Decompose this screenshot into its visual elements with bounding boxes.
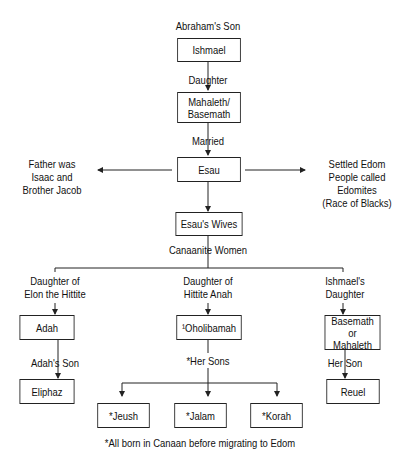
her-son-label: Her Son <box>315 357 375 370</box>
node-reuel: Reuel <box>326 379 379 404</box>
right-note-line-2: People called <box>319 171 395 184</box>
node-oholibamah: ¹Oholibamah <box>176 315 241 340</box>
basemath-origin-line-2: Daughter <box>315 288 375 301</box>
daughter-label: Daughter <box>174 74 243 87</box>
her-sons-label: *Her Sons <box>174 355 243 368</box>
right-note-line-3: Edomites <box>319 184 395 197</box>
node-adah: Adah <box>19 315 74 340</box>
node-mahaleth-basemath: Mahaleth/ Basemath <box>177 92 241 123</box>
left-note-line-2: Isaac and <box>14 171 90 184</box>
node-korah: *Korah <box>250 403 302 428</box>
node-basemath-mahaleth: Basemath or Mahaleth <box>325 315 381 350</box>
node-jeush: *Jeush <box>97 403 149 428</box>
oholibamah-origin-line-1: Daughter of <box>169 275 246 288</box>
oholibamah-origin-line-2: Hittite Anah <box>169 288 246 301</box>
married-label: Married <box>174 135 243 148</box>
family-tree-diagram: Abraham's Son Ishmael Daughter Mahaleth/… <box>0 0 400 461</box>
left-note-line-3: Brother Jacob <box>14 184 90 197</box>
adahs-son-label: Adah's Son <box>21 357 90 370</box>
node-ishmael: Ishmael <box>177 38 241 62</box>
right-note-line-4: (Race of Blacks) <box>319 197 395 210</box>
abrahams-son-label: Abraham's Son <box>165 20 251 33</box>
left-note-line-1: Father was <box>14 158 90 171</box>
node-esaus-wives: Esau's Wives <box>175 212 242 236</box>
right-note-line-1: Settled Edom <box>319 158 395 171</box>
footnote: *All born in Canaan before migrating to … <box>80 437 321 450</box>
oholibamah-origin-label: Daughter of Hittite Anah <box>169 275 246 301</box>
adah-origin-line-2: Elon the Hittite <box>16 288 93 301</box>
adah-origin-label: Daughter of Elon the Hittite <box>16 275 93 301</box>
node-eliphaz: Eliphaz <box>19 379 74 404</box>
adah-origin-line-1: Daughter of <box>16 275 93 288</box>
left-note: Father was Isaac and Brother Jacob <box>14 158 90 197</box>
right-note: Settled Edom People called Edomites (Rac… <box>319 158 395 210</box>
node-jalam: *Jalam <box>174 403 226 428</box>
node-esau: Esau <box>177 157 241 182</box>
basemath-origin-label: Ishmael's Daughter <box>315 275 375 301</box>
basemath-origin-line-1: Ishmael's <box>315 275 375 288</box>
canaanite-women-label: Canaanite Women <box>156 244 259 257</box>
